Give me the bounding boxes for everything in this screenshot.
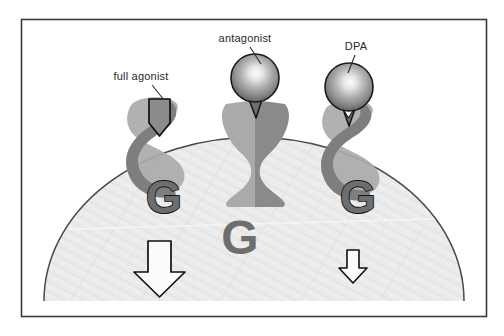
label-dpa-text: DPA (345, 40, 368, 52)
ligand-antagonist-sphere[interactable] (231, 54, 279, 102)
g-protein-free-letter: G (221, 211, 258, 264)
g-protein-left-letter: G (146, 171, 182, 223)
g-protein-right[interactable]: G (340, 171, 376, 223)
figure-container: G G G (0, 0, 504, 336)
g-protein-right-letter: G (340, 171, 376, 223)
g-protein-free[interactable]: G (221, 211, 258, 264)
label-full-agonist-text: full agonist (114, 70, 169, 82)
label-antagonist-text: antagonist (219, 32, 272, 44)
gpcr-signaling-diagram: G G G (0, 0, 504, 336)
g-protein-left[interactable]: G (146, 171, 182, 223)
